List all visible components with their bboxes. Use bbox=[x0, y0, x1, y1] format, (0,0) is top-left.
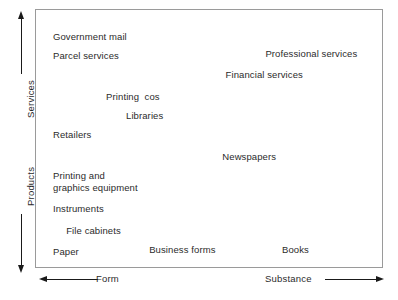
arrow-left-icon bbox=[39, 276, 47, 282]
map-label: Retailers bbox=[53, 129, 91, 141]
products-axis-label: Products bbox=[25, 167, 36, 206]
map-label: Professional services bbox=[265, 48, 357, 60]
substance-axis-label: Substance bbox=[265, 273, 312, 284]
arrow-down-icon bbox=[18, 265, 24, 273]
perceptual-map-figure: Services Products Form Substance Governm… bbox=[0, 0, 398, 300]
products-axis-arrow bbox=[21, 214, 22, 266]
map-label: Books bbox=[282, 244, 309, 256]
arrow-up-icon bbox=[18, 11, 24, 19]
form-axis-label: Form bbox=[96, 273, 119, 284]
arrow-right-icon bbox=[376, 276, 384, 282]
map-label: Newspapers bbox=[222, 151, 276, 163]
map-label: Printing cos bbox=[106, 91, 160, 103]
map-label: Parcel services bbox=[53, 50, 119, 62]
map-label: File cabinets bbox=[66, 225, 121, 237]
map-label: Paper bbox=[53, 246, 79, 258]
services-axis-arrow bbox=[21, 18, 22, 74]
map-label: Libraries bbox=[126, 110, 163, 122]
map-label: Printing and graphics equipment bbox=[53, 170, 138, 194]
form-axis-arrow bbox=[46, 279, 98, 280]
map-label: Financial services bbox=[226, 69, 303, 81]
services-axis-label: Services bbox=[25, 80, 36, 118]
map-label: Instruments bbox=[53, 203, 104, 215]
substance-axis-arrow bbox=[325, 279, 377, 280]
map-label: Government mail bbox=[53, 31, 127, 43]
map-label: Business forms bbox=[149, 244, 215, 256]
